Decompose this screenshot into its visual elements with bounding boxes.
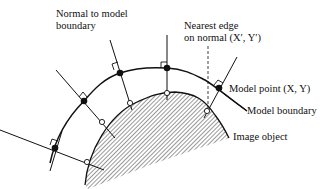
label-model-boundary: Model boundary bbox=[247, 105, 317, 117]
label-model-point: Model point (X, Y) bbox=[229, 83, 310, 95]
label-image-object: Image object bbox=[233, 131, 288, 143]
label-nearest-edge: Nearest edge on normal (X′, Y′) bbox=[184, 20, 261, 44]
label-normal: Normal to model boundary bbox=[56, 8, 128, 32]
diagram: Normal to model boundary Nearest edge on… bbox=[0, 0, 328, 189]
label-normal-line1: Normal to model bbox=[56, 8, 128, 20]
label-normal-line2: boundary bbox=[56, 20, 128, 32]
image-object bbox=[85, 92, 229, 189]
label-nearest-line2: on normal (X′, Y′) bbox=[184, 32, 261, 44]
label-nearest-line1: Nearest edge bbox=[184, 20, 261, 32]
